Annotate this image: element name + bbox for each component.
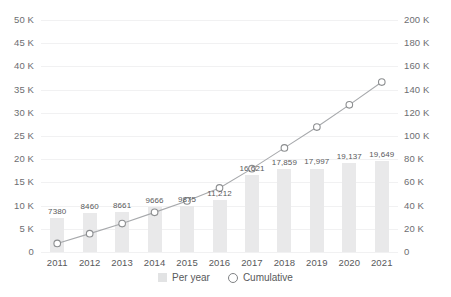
left-axis-tick-label: 10 K <box>0 200 34 211</box>
cumulative-data-point[interactable] <box>151 209 158 216</box>
left-axis-tick-label: 20 K <box>0 153 34 164</box>
right-axis-tick-label: 60 K <box>404 176 424 187</box>
cumulative-data-point[interactable] <box>119 220 126 227</box>
legend-circle-icon <box>228 273 238 283</box>
left-axis-tick-label: 45 K <box>0 37 34 48</box>
cumulative-data-point[interactable] <box>314 124 321 131</box>
right-axis-tick-label: 0 <box>404 246 409 257</box>
cumulative-data-point[interactable] <box>281 145 288 152</box>
legend-item-per-year[interactable]: Per year <box>158 272 210 283</box>
x-axis-tick-label: 2021 <box>362 257 402 268</box>
bar-value-label: 11,212 <box>197 189 243 198</box>
right-axis-tick-label: 180 K <box>404 37 429 48</box>
chart-legend: Per year Cumulative <box>0 272 451 283</box>
left-axis-tick-label: 5 K <box>0 223 34 234</box>
legend-label-per-year: Per year <box>172 272 210 283</box>
left-axis-tick-label: 0 <box>0 246 34 257</box>
legend-square-icon <box>158 273 167 282</box>
right-axis-tick-label: 20 K <box>404 223 424 234</box>
cumulative-data-point[interactable] <box>54 240 61 247</box>
left-axis-tick-label: 15 K <box>0 176 34 187</box>
left-axis-tick-label: 35 K <box>0 84 34 95</box>
right-axis-tick-label: 140 K <box>404 84 429 95</box>
cumulative-data-point[interactable] <box>86 230 93 237</box>
plot-area <box>41 20 398 252</box>
left-axis-tick-label: 30 K <box>0 107 34 118</box>
right-axis-tick-label: 160 K <box>404 60 429 71</box>
right-axis-tick-label: 40 K <box>404 200 424 211</box>
gridline <box>41 252 398 253</box>
bar-value-label: 19,649 <box>359 150 405 159</box>
legend-item-cumulative[interactable]: Cumulative <box>228 272 293 283</box>
cumulative-data-point[interactable] <box>378 79 385 86</box>
right-axis-tick-label: 200 K <box>404 14 429 25</box>
chart-container: 05 K10 K15 K20 K25 K30 K35 K40 K45 K50 K… <box>0 0 451 297</box>
cumulative-data-point[interactable] <box>346 102 353 109</box>
left-axis-tick-label: 50 K <box>0 14 34 25</box>
right-axis-tick-label: 80 K <box>404 153 424 164</box>
left-axis-tick-label: 25 K <box>0 130 34 141</box>
right-axis-tick-label: 100 K <box>404 130 429 141</box>
cumulative-line-series <box>41 20 398 252</box>
left-axis-tick-label: 40 K <box>0 60 34 71</box>
legend-label-cumulative: Cumulative <box>243 272 293 283</box>
right-axis-tick-label: 120 K <box>404 107 429 118</box>
